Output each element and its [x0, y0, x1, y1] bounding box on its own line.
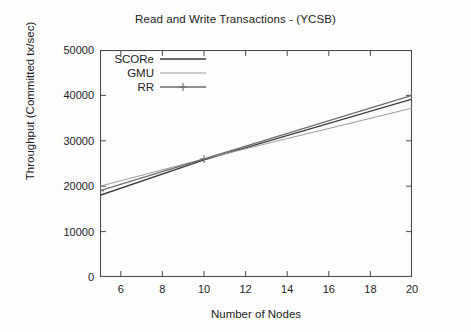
legend-label: RR	[137, 81, 154, 93]
y-tick-label: 20000	[34, 180, 94, 192]
chart-title: Read and Write Transactions - (YCSB)	[0, 13, 471, 25]
legend-line-sample-rr	[158, 81, 208, 93]
y-axis-tick-labels: 01000020000300004000050000	[30, 50, 94, 277]
x-axis-tick-labels: 68101214161820	[100, 283, 412, 303]
chart-legend: SCOReGMURR	[108, 52, 208, 94]
x-tick-label: 14	[270, 283, 304, 295]
marker-plus-rr-1	[200, 155, 208, 163]
y-tick-label: 40000	[34, 89, 94, 101]
chart-figure: Read and Write Transactions - (YCSB) Thr…	[0, 0, 471, 332]
x-tick-label: 18	[353, 283, 387, 295]
y-tick-label: 0	[34, 271, 94, 283]
y-tick-label: 30000	[34, 135, 94, 147]
x-tick-label: 12	[229, 283, 263, 295]
legend-label: GMU	[127, 67, 154, 79]
legend-label: SCORe	[114, 53, 154, 65]
series-line-rr	[100, 95, 412, 190]
legend-line-sample-score	[158, 53, 208, 65]
x-tick-label: 20	[395, 283, 429, 295]
legend-item-rr[interactable]: RR	[108, 80, 208, 94]
x-axis-label: Number of Nodes	[100, 308, 412, 320]
x-tick-label: 16	[312, 283, 346, 295]
series-line-gmu	[100, 108, 412, 186]
y-tick-label: 10000	[34, 226, 94, 238]
legend-item-gmu[interactable]: GMU	[108, 66, 208, 80]
y-tick-label: 50000	[34, 44, 94, 56]
x-tick-label: 8	[145, 283, 179, 295]
legend-line-sample-gmu	[158, 67, 208, 79]
series-line-score	[100, 99, 412, 195]
x-tick-label: 6	[104, 283, 138, 295]
x-tick-label: 10	[187, 283, 221, 295]
legend-item-score[interactable]: SCORe	[108, 52, 208, 66]
